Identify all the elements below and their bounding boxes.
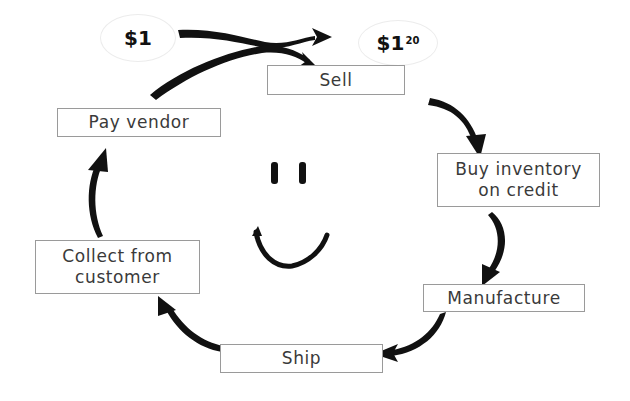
step-collect-line2: customer xyxy=(36,267,199,288)
arrow-collect-to-pay-vendor-icon xyxy=(88,148,108,238)
step-manufacture-label: Manufacture xyxy=(424,288,584,309)
step-collect-from-customer: Collect from customer xyxy=(35,240,200,294)
step-pay-vendor-label: Pay vendor xyxy=(58,112,220,133)
step-buy-inventory: Buy inventory on credit xyxy=(437,153,600,207)
start-amount-value: 1 xyxy=(138,26,152,50)
arrow-start-to-end-icon xyxy=(178,28,332,48)
step-sell: Sell xyxy=(267,65,405,95)
step-manufacture: Manufacture xyxy=(423,284,585,312)
step-buy-inventory-line2: on credit xyxy=(438,180,599,201)
step-collect-line1: Collect from xyxy=(36,246,199,267)
end-amount-badge: $120 xyxy=(358,20,438,66)
cash-cycle-diagram: $1 $120 Sell Buy inventory on credit Man… xyxy=(0,0,630,401)
arrow-ship-to-collect-icon xyxy=(158,296,224,352)
start-amount-badge: $1 xyxy=(100,14,176,62)
start-amount-symbol: $ xyxy=(124,26,138,50)
step-sell-label: Sell xyxy=(268,70,404,91)
arrow-manufacture-to-ship-icon xyxy=(374,312,446,362)
smiley-face-icon xyxy=(252,162,327,266)
step-buy-inventory-line1: Buy inventory xyxy=(438,159,599,180)
end-amount-value: 1 xyxy=(391,31,405,55)
step-pay-vendor: Pay vendor xyxy=(57,108,221,137)
step-ship-label: Ship xyxy=(221,348,382,369)
end-amount-symbol: $ xyxy=(377,31,391,55)
end-amount-cents: 20 xyxy=(405,35,419,46)
arrow-buy-to-manufacture-icon xyxy=(482,212,505,286)
step-ship: Ship xyxy=(220,344,383,373)
arrow-sell-to-buy-icon xyxy=(428,98,486,158)
